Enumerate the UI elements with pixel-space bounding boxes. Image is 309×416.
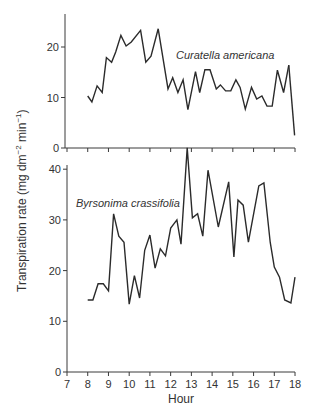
- y-tick-label: 10: [47, 92, 59, 104]
- y-tick-label: 40: [49, 163, 61, 175]
- y-tick-label: 20: [49, 265, 61, 277]
- x-tick-label: 15: [227, 378, 239, 390]
- x-tick-label: 10: [123, 378, 135, 390]
- x-tick-label: 8: [85, 378, 91, 390]
- byrsonima-label: Byrsonima crassifolia: [76, 197, 180, 209]
- y-tick-label: 30: [49, 214, 61, 226]
- x-tick-label: 9: [105, 378, 111, 390]
- bottom-x-ticks: 789101112131415161718: [64, 372, 301, 390]
- series-line: [88, 29, 289, 110]
- y-axis-label: Transpiration rate (mg dm−2 min−1): [14, 109, 29, 292]
- x-tick-label: 17: [268, 378, 280, 390]
- x-tick-label: 7: [64, 378, 70, 390]
- top-series-curatella: [88, 29, 295, 136]
- top-y-ticks: 01020: [47, 41, 65, 154]
- y-tick-label: 20: [47, 41, 59, 53]
- x-tick-label: 12: [165, 378, 177, 390]
- series-line: [88, 148, 295, 304]
- top-panel: 01020 Curatella americana: [47, 14, 295, 154]
- bottom-series-byrsonima: [88, 148, 295, 304]
- curatella-label: Curatella americana: [176, 49, 274, 61]
- series-line: [289, 65, 295, 135]
- x-tick-label: 13: [185, 378, 197, 390]
- y-tick-label: 10: [49, 315, 61, 327]
- transpiration-chart: 01020 Curatella americana 010203040 7891…: [0, 0, 309, 416]
- bottom-panel: 010203040 789101112131415161718 Byrsonim…: [49, 148, 301, 390]
- bottom-y-ticks: 010203040: [49, 163, 67, 378]
- y-tick-label: 0: [53, 142, 59, 154]
- y-tick-label: 0: [55, 366, 61, 378]
- x-axis-label: Hour: [168, 392, 194, 406]
- x-tick-label: 14: [206, 378, 218, 390]
- x-tick-label: 16: [247, 378, 259, 390]
- x-tick-label: 11: [144, 378, 155, 390]
- top-x-ticks: [67, 148, 295, 152]
- x-tick-label: 18: [289, 378, 301, 390]
